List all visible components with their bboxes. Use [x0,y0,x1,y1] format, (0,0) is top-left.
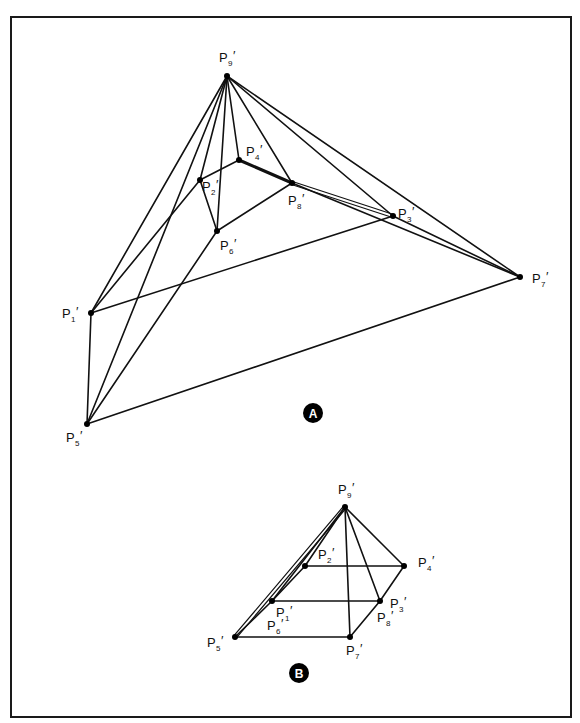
double-edge-p8-p3 [292,181,393,214]
thick-edge-p4-p8 [239,160,292,183]
vertex-p2 [302,563,308,569]
panel-badge-label: A [309,407,318,421]
prime-mark: ′ [76,304,79,319]
double-edge-p8-p3 [292,185,393,218]
vertex-p5 [232,634,238,640]
edge-p9-p1 [91,76,227,313]
edge-p9-p5 [87,76,227,424]
edge-p9-p4 [345,507,404,566]
vertex-p7 [347,634,353,640]
edge-p2-p4 [200,160,239,180]
label-p8-prime: P [377,610,386,625]
prime-mark: ′ [80,428,83,443]
vertex-p1 [269,598,275,604]
label-p4-prime: P [246,144,255,159]
label-p8-prime: P [288,193,297,208]
prime-mark: ′ [412,204,415,219]
prime-mark: ′ [234,236,237,251]
prime-mark: ′ [221,633,224,648]
prime-mark: ′ [432,553,435,568]
edge-p9-p3 [345,507,380,601]
vertex-p1 [88,310,94,316]
edge-p3-p7 [393,216,520,277]
prime-mark: ′ [233,48,236,63]
prime-mark: ′ [352,480,355,495]
label-p4-prime: P [418,555,427,570]
prime-mark: ′ [360,641,363,656]
edge-p5-p6 [87,231,217,424]
prime-mark: ′ [546,269,549,284]
edge-p9-p7 [345,507,350,637]
panel-b-parallel-pyramid: P9′P2′P4′P1′P3′P5′P7′P6′P8′B [207,480,435,683]
edge-p1-p2 [91,180,200,313]
label-p5-prime: P [66,430,75,445]
edge-p8-p7 [292,183,520,277]
label-p1-prime: P [62,306,71,321]
edge-p5-p7 [87,277,520,424]
vertex-p9 [342,504,348,510]
vertex-p5 [84,421,90,427]
vertex-p4 [401,563,407,569]
label-p7-prime: P [346,643,355,658]
edge-p1-p3 [91,216,393,313]
vertex-p9 [224,73,230,79]
diagram-canvas: P9′P4′P2′P8′P3′P6′P1′P5′P7′A P9′P2′P4′P1… [0,0,580,723]
vertex-p7 [517,274,523,280]
prime-mark: ′ [260,142,263,157]
edge-p1-p5 [87,313,91,424]
edge-p6-p8 [217,183,292,231]
vertex-p3 [377,598,383,604]
label-p6-prime: P [220,238,229,253]
edge-p9-p4 [227,76,239,160]
label-p9-prime: P [338,482,347,497]
prime-mark: ′ [290,603,293,618]
vertex-p4 [236,157,242,163]
double-edge-p9-p5 [236,508,346,638]
prime-mark: ′ [302,191,305,206]
label-p2-prime: P [202,179,211,194]
label-p7-prime: P [532,271,541,286]
vertex-p3 [390,213,396,219]
panel-a-perspective-pyramid: P9′P4′P2′P8′P3′P6′P1′P5′P7′A [62,48,549,448]
label-p3-prime: P [398,206,407,221]
edge-p9-p8 [227,76,292,183]
label-p2-prime: P [318,547,327,562]
prime-mark: ′ [216,177,219,192]
edge-p3-p7 [350,601,380,637]
label-p6-prime: P [267,618,276,633]
vertex-p8 [289,180,295,186]
edge-p9-p7 [227,76,520,277]
panel-badge-label: B [295,667,304,681]
label-p9-prime: P [219,50,228,65]
prime-mark: ′ [404,594,407,609]
prime-mark: ′ [332,545,335,560]
label-p5-prime: P [207,635,216,650]
vertex-p6 [214,228,220,234]
